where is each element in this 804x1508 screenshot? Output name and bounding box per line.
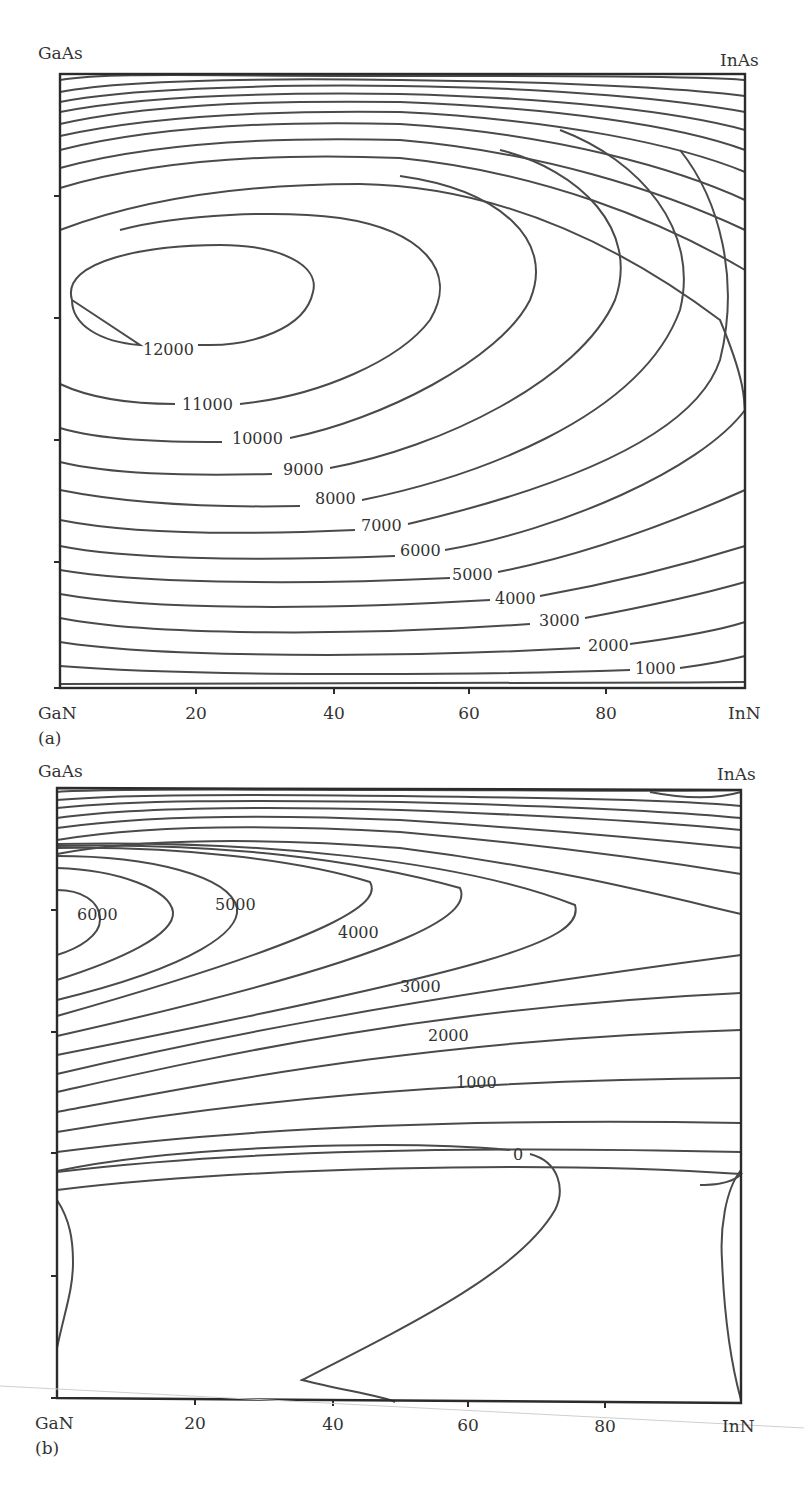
contour-label-10000: 10000 [232, 429, 283, 448]
scan-artifact-line [0, 1386, 804, 1428]
x-tick-60: 60 [458, 705, 480, 722]
contour-lines-parabolic-b [57, 844, 741, 1190]
panel-label-a: (a) [38, 730, 61, 747]
contour-lines-top-b [57, 790, 741, 915]
contour-label-12000: 12000 [143, 340, 194, 359]
contour-12000 [71, 245, 314, 345]
contour-chart-a: 12000 11000 10000 9000 8000 7000 6000 50… [0, 0, 804, 760]
contour-label-7000: 7000 [361, 516, 402, 535]
x-tick-80-b: 80 [594, 1418, 616, 1435]
contour-plot-a: 12000 11000 10000 9000 8000 7000 6000 50… [0, 0, 804, 760]
contour-label-1000: 1000 [635, 659, 676, 678]
corner-label-inn: InN [728, 705, 761, 722]
contour-label-9000: 9000 [283, 460, 324, 479]
corner-label-inn-b: InN [722, 1418, 755, 1435]
contour-label-0: 0 [513, 1145, 523, 1164]
corner-label-gaas: GaAs [38, 45, 83, 62]
plot-frame-b [57, 788, 741, 1403]
contour-label-5000: 5000 [452, 565, 493, 584]
x-tick-20: 20 [185, 705, 207, 722]
contour-chart-b: 6000 5000 4000 3000 2000 1000 0 GaAs InA… [0, 760, 804, 1508]
axis-ticks-a [54, 196, 606, 694]
contour-label-2000: 2000 [588, 636, 629, 655]
contour-label-6000: 6000 [400, 541, 441, 560]
contour-lines-open-a [60, 130, 745, 684]
corner-label-inas: InAs [720, 52, 759, 69]
contour-label-4000: 4000 [338, 923, 379, 942]
contour-label-11000: 11000 [182, 395, 233, 414]
contour-label-3000: 3000 [539, 611, 580, 630]
contour-label-1000: 1000 [456, 1073, 497, 1092]
contour-label-5000: 5000 [215, 895, 256, 914]
contour-label-4000: 4000 [495, 589, 536, 608]
contour-label-6000: 6000 [77, 905, 118, 924]
corner-label-gan-b: GaN [35, 1415, 74, 1432]
contour-lobe-left [57, 1200, 73, 1348]
x-tick-60-b: 60 [457, 1417, 479, 1434]
x-tick-40-b: 40 [322, 1416, 344, 1433]
x-tick-20-b: 20 [184, 1415, 206, 1432]
corner-label-inas-b: InAs [717, 766, 756, 783]
contour-label-8000: 8000 [315, 489, 356, 508]
contour-0 [57, 1145, 560, 1402]
corner-label-gaas-b: GaAs [38, 763, 83, 780]
contour-lobe-right [722, 1170, 741, 1400]
contour-label-2000: 2000 [428, 1026, 469, 1045]
x-tick-80: 80 [595, 705, 617, 722]
x-tick-40: 40 [323, 705, 345, 722]
contour-plot-b: 6000 5000 4000 3000 2000 1000 0 [0, 760, 804, 1508]
contour-labels-a: 12000 11000 10000 9000 8000 7000 6000 50… [143, 340, 676, 678]
corner-label-gan: GaN [38, 705, 77, 722]
panel-label-b: (b) [35, 1440, 59, 1457]
contour-label-3000: 3000 [400, 977, 441, 996]
